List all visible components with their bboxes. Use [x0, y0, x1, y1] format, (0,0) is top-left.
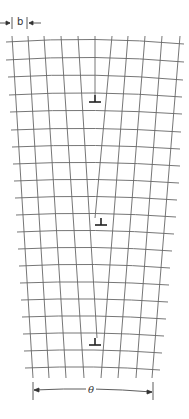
- burgers-vector-label: b: [17, 16, 23, 27]
- dislocation-symbols: [89, 95, 107, 345]
- tilt-boundary-diagram: b θ: [0, 0, 189, 419]
- vertical-lattice-planes: [12, 36, 180, 378]
- dislocation-2: [95, 218, 107, 225]
- dislocation-3: [89, 338, 101, 345]
- tilt-angle-label: θ: [86, 384, 96, 395]
- lattice-grid: [0, 0, 189, 419]
- dislocation-1: [89, 95, 101, 102]
